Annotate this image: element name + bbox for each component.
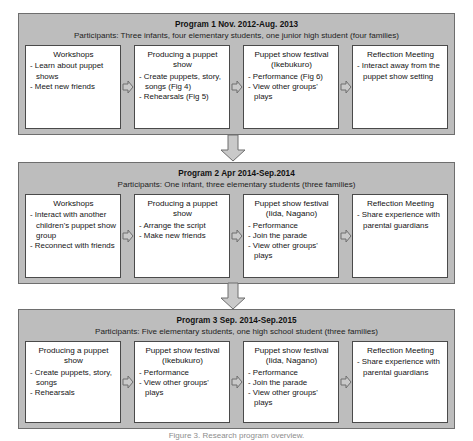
stage-box-reflection-meeting[interactable]: Reflection Meeting - Share experience wi… <box>352 194 448 278</box>
stage-item-list: - Learn about puppet shows - Meet new fr… <box>30 61 117 92</box>
stage-item-list: - Share experience with parental guardia… <box>357 210 444 230</box>
stage-list-item: - Performance <box>248 221 335 231</box>
stage-box-reflection-meeting[interactable]: Reflection Meeting - Interact away from … <box>352 45 448 129</box>
stage-item-list: - Interact away from the puppet show set… <box>357 61 444 81</box>
stage-list-item: - Rehearsals <box>30 388 117 398</box>
stage-list-item: - Join the parade <box>248 378 335 388</box>
program-3-participants: Participants: Five elementary students, … <box>25 326 448 337</box>
arrow-right-icon <box>121 194 134 278</box>
stage-list-item: - Interact away from the puppet show set… <box>357 61 444 81</box>
stage-box-producing-a-puppet-show[interactable]: Producing a puppet show - Create puppets… <box>25 341 121 423</box>
stage-list-item: - Performance (Fig 6) <box>248 72 335 82</box>
stage-title: Workshops <box>30 199 117 209</box>
stage-item-list: - Create puppets, story, songs - Rehears… <box>30 368 117 399</box>
stage-title: Puppet show festival (Ikebukuro) <box>139 346 226 367</box>
stage-box-puppet-show-festival-ikebukuro[interactable]: Puppet show festival (Ikebukuro) - Perfo… <box>134 341 230 423</box>
stage-list-item: - View other groups' plays <box>248 388 335 408</box>
stage-item-list: - Share experience with parental guardia… <box>357 357 444 377</box>
stage-item-list: - Performance - Join the parade - View o… <box>248 368 335 409</box>
stage-list-item: - Share experience with parental guardia… <box>357 357 444 377</box>
stage-list-item: - Create puppets, story, songs <box>30 368 117 388</box>
stage-list-item: - Make new friends <box>139 231 226 241</box>
arrow-down-icon <box>219 282 247 310</box>
program-panel-1: Program 1 Nov. 2012-Aug. 2013 Participan… <box>18 13 455 135</box>
stage-list-item: - Performance <box>248 368 335 378</box>
program-3-title: Program 3 Sep. 2014-Sep.2015 <box>25 315 448 326</box>
stage-item-list: - Performance (Fig 6) - View other group… <box>248 72 335 103</box>
stage-list-item: - View other groups' plays <box>139 378 226 398</box>
arrow-down-icon <box>219 134 247 162</box>
stage-list-item: - View other groups' plays <box>248 241 335 261</box>
stage-title: Puppet show festival (Iida, Nagano) <box>248 346 335 367</box>
stage-title: Producing a puppet show <box>139 50 226 71</box>
stage-list-item: - Reconnect with friends <box>30 241 117 251</box>
stage-title: Reflection Meeting <box>357 199 444 209</box>
stage-box-puppet-show-festival-iida-nagano[interactable]: Puppet show festival (Iida, Nagano) - Pe… <box>243 341 339 423</box>
stage-title: Reflection Meeting <box>357 346 444 356</box>
stage-item-list: - Performance - Join the parade - View o… <box>248 221 335 262</box>
stage-title: Workshops <box>30 50 117 60</box>
stage-box-producing-a-puppet-show[interactable]: Producing a puppet show - Create puppets… <box>134 45 230 129</box>
arrow-right-icon <box>339 341 352 423</box>
stage-box-puppet-show-festival-iida-nagano[interactable]: Puppet show festival (Iida, Nagano) - Pe… <box>243 194 339 278</box>
stage-title: Reflection Meeting <box>357 50 444 60</box>
arrow-right-icon <box>339 194 352 278</box>
stage-box-workshops[interactable]: Workshops - Interact with another childr… <box>25 194 121 278</box>
stage-title: Puppet show festival (Iida, Nagano) <box>248 199 335 220</box>
arrow-right-icon <box>121 341 134 423</box>
stage-box-producing-a-puppet-show[interactable]: Producing a puppet show - Arrange the sc… <box>134 194 230 278</box>
stage-title: Producing a puppet show <box>139 199 226 220</box>
arrow-right-icon <box>121 45 134 129</box>
stage-item-list: - Arrange the script - Make new friends <box>139 221 226 241</box>
stage-list-item: - Performance <box>139 368 226 378</box>
stage-list-item: - Arrange the script <box>139 221 226 231</box>
arrow-right-icon <box>339 45 352 129</box>
program-1-title: Program 1 Nov. 2012-Aug. 2013 <box>25 19 448 30</box>
stage-list-item: - Rehearsals (Fig 5) <box>139 92 226 102</box>
stage-item-list: - Create puppets, story, songs (Fig 4) -… <box>139 72 226 103</box>
stage-item-list: - Performance - View other groups' plays <box>139 368 226 399</box>
stage-list-item: - Learn about puppet shows <box>30 61 117 81</box>
program-2-stage-row: Workshops - Interact with another childr… <box>25 194 448 278</box>
figure-caption: Figure 3. Research program overview. <box>0 431 473 441</box>
stage-box-workshops[interactable]: Workshops - Learn about puppet shows - M… <box>25 45 121 129</box>
program-3-stage-row: Producing a puppet show - Create puppets… <box>25 341 448 423</box>
stage-title: Puppet show festival (Ikebukuro) <box>248 50 335 71</box>
arrow-right-icon <box>230 194 243 278</box>
program-1-stage-row: Workshops - Learn about puppet shows - M… <box>25 45 448 129</box>
stage-list-item: - View other groups' plays <box>248 82 335 102</box>
program-2-participants: Participants: One infant, three elementa… <box>25 179 448 190</box>
arrow-right-icon <box>230 45 243 129</box>
program-panel-3: Program 3 Sep. 2014-Sep.2015 Participant… <box>18 309 455 429</box>
program-panel-2: Program 2 Apr 2014-Sep.2014 Participants… <box>18 162 455 284</box>
stage-box-puppet-show-festival-ikebukuro[interactable]: Puppet show festival (Ikebukuro) - Perfo… <box>243 45 339 129</box>
stage-box-reflection-meeting[interactable]: Reflection Meeting - Share experience wi… <box>352 341 448 423</box>
program-1-participants: Participants: Three infants, four elemen… <box>25 30 448 41</box>
stage-list-item: - Join the parade <box>248 231 335 241</box>
stage-list-item: - Interact with another children's puppe… <box>30 210 117 241</box>
stage-list-item: - Create puppets, story, songs (Fig 4) <box>139 72 226 92</box>
stage-list-item: - Share experience with parental guardia… <box>357 210 444 230</box>
stage-item-list: - Interact with another children's puppe… <box>30 210 117 251</box>
program-2-title: Program 2 Apr 2014-Sep.2014 <box>25 168 448 179</box>
arrow-right-icon <box>230 341 243 423</box>
stage-list-item: - Meet new friends <box>30 82 117 92</box>
stage-title: Producing a puppet show <box>30 346 117 367</box>
